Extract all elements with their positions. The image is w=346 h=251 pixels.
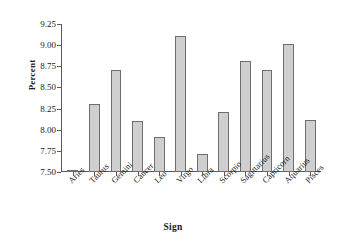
y-tick-mark	[57, 130, 61, 131]
bar-chart: Percent 9.259.008.758.508.258.007.757.50…	[0, 0, 346, 251]
plot-area	[62, 24, 321, 172]
bar	[132, 121, 143, 172]
y-tick-label: 8.50	[24, 82, 56, 92]
y-tick-label: 7.50	[24, 167, 56, 177]
x-tick-mark	[94, 172, 95, 176]
y-tick-mark	[57, 66, 61, 67]
x-axis-tick-labels: AriesTaurusGeminiCancerLeoVirgoLibraScor…	[62, 174, 321, 220]
y-tick-mark	[57, 172, 61, 173]
x-tick-mark	[289, 172, 290, 176]
bar	[111, 70, 122, 172]
x-tick-mark	[138, 172, 139, 176]
y-tick-label: 8.25	[24, 104, 56, 114]
bar	[89, 104, 100, 172]
x-tick-mark	[181, 172, 182, 176]
bar	[175, 36, 186, 172]
y-tick-label: 8.00	[24, 125, 56, 135]
y-tick-mark	[57, 109, 61, 110]
y-axis-tick-labels: 9.259.008.758.508.258.007.757.50	[24, 18, 56, 174]
x-tick-mark	[245, 172, 246, 176]
x-tick-mark	[159, 172, 160, 176]
y-tick-label: 9.25	[24, 19, 56, 29]
y-tick-label: 8.75	[24, 61, 56, 71]
x-tick-mark	[202, 172, 203, 176]
x-axis-title: Sign	[0, 222, 346, 232]
x-tick-mark	[73, 172, 74, 176]
x-tick-mark	[116, 172, 117, 176]
x-tick-mark	[267, 172, 268, 176]
y-tick-label: 9.00	[24, 40, 56, 50]
x-tick-mark	[224, 172, 225, 176]
bar	[240, 61, 251, 172]
y-tick-label: 7.75	[24, 146, 56, 156]
y-tick-mark	[57, 87, 61, 88]
y-tick-mark	[57, 151, 61, 152]
x-tick-mark	[310, 172, 311, 176]
bar	[218, 112, 229, 172]
y-tick-mark	[57, 24, 61, 25]
y-tick-mark	[57, 45, 61, 46]
